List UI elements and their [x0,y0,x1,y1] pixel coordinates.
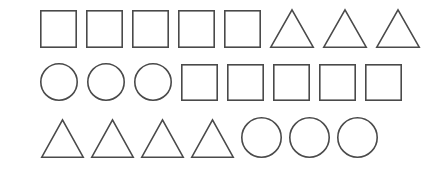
circle-outline [88,64,124,100]
shape-sheet [0,0,422,174]
shape-square-r1-c1 [40,10,77,48]
circle-outline [135,64,171,100]
shape-square-r2-c8 [365,64,402,101]
square-outline [87,11,122,47]
square-outline [225,11,260,47]
triangle-outline [92,120,133,157]
shape-triangle-r3-c3 [141,119,184,158]
shape-square-r1-c2 [86,10,123,48]
shape-square-r1-c4 [178,10,215,48]
triangle-outline [377,10,419,47]
shape-circle-r3-c7 [337,117,378,158]
shape-square-r2-c4 [181,64,218,101]
shape-circle-r2-c3 [134,63,172,101]
shape-row-1 [40,9,420,48]
shape-square-r2-c5 [227,64,264,101]
circle-outline [242,118,281,157]
square-outline [366,65,401,100]
shape-triangle-r1-c8 [376,9,420,48]
square-outline [41,11,76,47]
shape-row-3 [41,117,378,158]
triangle-outline [42,120,83,157]
shape-square-r1-c3 [132,10,169,48]
square-outline [320,65,355,100]
shape-row-2 [40,63,402,101]
shape-circle-r3-c6 [289,117,330,158]
triangle-outline [324,10,366,47]
circle-outline [338,118,377,157]
shape-circle-r2-c2 [87,63,125,101]
shape-circle-r3-c5 [241,117,282,158]
square-outline [179,11,214,47]
triangle-outline [192,120,233,157]
circle-outline [290,118,329,157]
shape-square-r2-c6 [273,64,310,101]
square-outline [182,65,217,100]
shape-triangle-r1-c6 [270,9,314,48]
triangle-outline [142,120,183,157]
square-outline [228,65,263,100]
shape-triangle-r3-c2 [91,119,134,158]
triangle-outline [271,10,313,47]
shape-triangle-r1-c7 [323,9,367,48]
square-outline [274,65,309,100]
shape-triangle-r3-c4 [191,119,234,158]
shape-square-r2-c7 [319,64,356,101]
shape-circle-r2-c1 [40,63,78,101]
square-outline [133,11,168,47]
shape-square-r1-c5 [224,10,261,48]
shape-triangle-r3-c1 [41,119,84,158]
circle-outline [41,64,77,100]
